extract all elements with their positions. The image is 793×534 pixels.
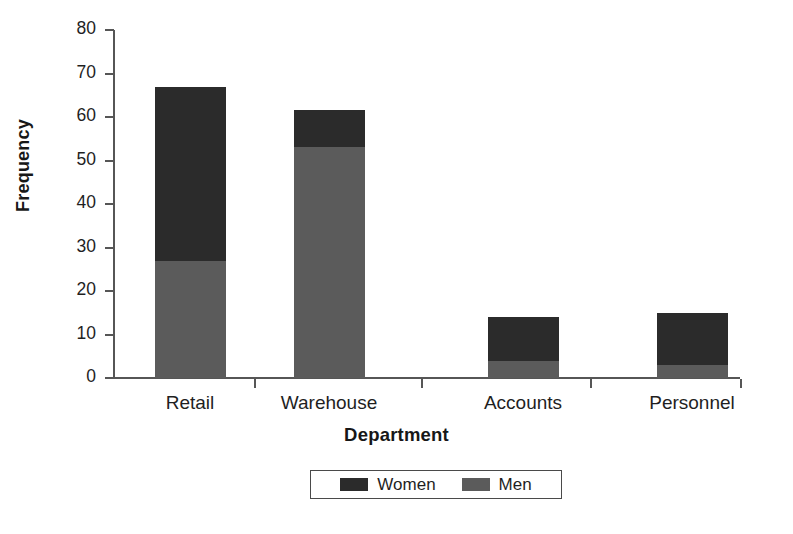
- bar-retail: [155, 87, 226, 378]
- bar-accounts: [488, 317, 559, 378]
- x-tick-mark: [254, 379, 256, 388]
- y-tick-label: 70: [36, 64, 96, 82]
- x-tick-mark: [740, 379, 742, 388]
- y-tick-label: 80: [36, 20, 96, 38]
- y-tick-label: 0: [36, 368, 96, 386]
- y-tick-label: 50: [36, 151, 96, 169]
- y-tick-mark: [105, 160, 114, 162]
- category-label-personnel: Personnel: [602, 392, 782, 414]
- y-tick-label: 30: [36, 238, 96, 256]
- bar-segment-men: [155, 261, 226, 378]
- y-tick-mark: [105, 116, 114, 118]
- bar-segment-women: [294, 110, 365, 147]
- bar-segment-women: [657, 313, 728, 365]
- category-label-accounts: Accounts: [433, 392, 613, 414]
- bar-personnel: [657, 313, 728, 378]
- y-tick-mark: [105, 203, 114, 205]
- x-tick-mark: [590, 379, 592, 388]
- legend: WomenMen: [310, 470, 562, 499]
- category-label-warehouse: Warehouse: [239, 392, 419, 414]
- y-tick-mark: [105, 29, 114, 31]
- y-tick-label: 60: [36, 107, 96, 125]
- y-tick-mark: [105, 247, 114, 249]
- y-tick-mark: [105, 334, 114, 336]
- legend-swatch-icon: [462, 478, 490, 491]
- bar-segment-men: [294, 147, 365, 378]
- stacked-bar-chart: Frequency 80706050403020100 RetailWareho…: [0, 0, 793, 534]
- x-axis-title: Department: [0, 424, 793, 446]
- legend-item-men[interactable]: Men: [462, 476, 532, 493]
- bar-segment-women: [155, 87, 226, 261]
- y-tick-label: 20: [36, 281, 96, 299]
- bar-segment-women: [488, 317, 559, 361]
- y-tick-mark: [105, 73, 114, 75]
- legend-label: Women: [377, 476, 435, 493]
- bar-warehouse: [294, 110, 365, 378]
- y-tick-mark: [105, 290, 114, 292]
- legend-label: Men: [499, 476, 532, 493]
- legend-swatch-icon: [340, 478, 368, 491]
- bar-segment-men: [488, 361, 559, 378]
- y-tick-label: 10: [36, 325, 96, 343]
- y-tick-label: 40: [36, 194, 96, 212]
- y-tick-mark: [105, 377, 114, 379]
- x-tick-mark: [421, 379, 423, 388]
- y-axis-title: Frequency: [13, 86, 34, 246]
- legend-item-women[interactable]: Women: [340, 476, 435, 493]
- bar-segment-men: [657, 365, 728, 378]
